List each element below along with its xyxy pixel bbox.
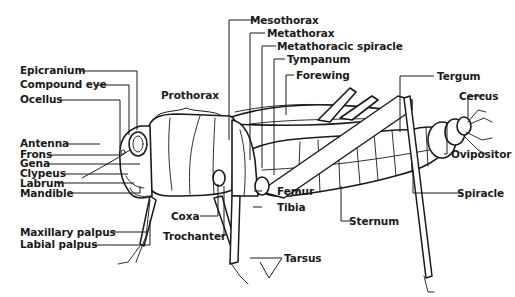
label-labial-palpus: Labial palpus (20, 238, 97, 250)
label-mandible: Mandible (20, 187, 74, 199)
label-maxillary-palpus: Maxillary palpus (20, 226, 116, 238)
hind-tibia-shape (404, 96, 432, 278)
label-metathorax: Metathorax (267, 27, 334, 39)
label-tympanum: Tympanum (287, 53, 350, 65)
label-mesothorax: Mesothorax (250, 14, 319, 26)
label-coxa: Coxa (171, 210, 199, 222)
label-ocellus: Ocellus (20, 93, 63, 105)
label-ovipositor: Ovipositor (451, 148, 511, 160)
grasshopper-anatomy-diagram: Epicranium Compound eye Ocellus Antenna … (0, 0, 515, 297)
label-tergum: Tergum (437, 70, 480, 82)
label-forewing: Forewing (296, 69, 350, 81)
label-trochanter: Trochanter (163, 230, 226, 242)
label-tibia: Tibia (277, 201, 305, 213)
label-cercus: Cercus (459, 90, 498, 102)
grasshopper-illustration (0, 0, 515, 297)
label-compound-eye: Compound eye (20, 78, 107, 90)
label-tarsus: Tarsus (284, 252, 321, 264)
label-prothorax: Prothorax (161, 89, 219, 101)
label-epicranium: Epicranium (20, 64, 85, 76)
label-femur: Femur (277, 185, 314, 197)
label-spiracle: Spiracle (457, 187, 504, 199)
label-sternum: Sternum (349, 215, 399, 227)
label-metathoracic-spiracle: Metathoracic spiracle (277, 40, 403, 52)
